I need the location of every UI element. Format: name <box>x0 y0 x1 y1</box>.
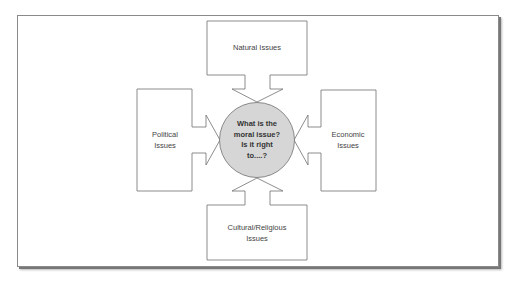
natural-issues-label: Natural Issues <box>233 43 281 54</box>
cultural-issues-arrow-shape <box>207 178 307 260</box>
political-text-line1: Political <box>152 130 178 141</box>
center-text-line1: What is the <box>234 119 280 130</box>
cultural-religious-issues-label: Cultural/Religious Issues <box>228 223 287 244</box>
center-text-line4: to....? <box>234 151 280 162</box>
political-issues-label: Political Issues <box>152 130 178 151</box>
moral-issue-question: What is the moral issue? Is it right to.… <box>234 119 280 161</box>
cultural-text-line2: Issues <box>228 233 287 244</box>
economic-issues-label: Economic Issues <box>332 130 365 151</box>
economic-text-line2: Issues <box>332 140 365 151</box>
political-text-line2: Issues <box>152 140 178 151</box>
natural-issues-text: Natural Issues <box>233 43 281 54</box>
political-issues-arrow-shape <box>137 89 220 191</box>
center-text-line2: moral issue? <box>234 130 280 141</box>
economic-text-line1: Economic <box>332 130 365 141</box>
center-text-line3: Is it right <box>234 140 280 151</box>
cultural-text-line1: Cultural/Religious <box>228 223 287 234</box>
natural-issues-arrow-shape <box>207 21 307 102</box>
